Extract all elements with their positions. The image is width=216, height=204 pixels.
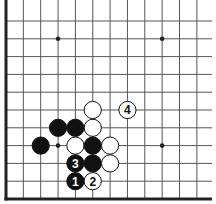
black-stone [49,119,66,136]
star-point [160,37,165,42]
white-stone [102,137,119,154]
black-stone [84,155,101,172]
go-board: 4312 [0,0,216,204]
white-stone-4: 4 [119,101,136,118]
white-stone-2: 2 [84,173,101,190]
white-stone [84,119,101,136]
black-stone-3: 3 [67,155,84,172]
white-stone [102,155,119,172]
move-number: 1 [72,175,79,189]
star-point [56,143,61,148]
black-stone [84,137,101,154]
star-point [160,143,165,148]
star-point [56,37,61,42]
white-stone [84,101,101,118]
black-stone [32,137,49,154]
move-number: 3 [72,157,79,171]
black-stone-1: 1 [67,173,84,190]
move-number: 2 [89,175,96,189]
white-stone [67,137,84,154]
move-number: 4 [124,103,131,117]
black-stone [67,119,84,136]
